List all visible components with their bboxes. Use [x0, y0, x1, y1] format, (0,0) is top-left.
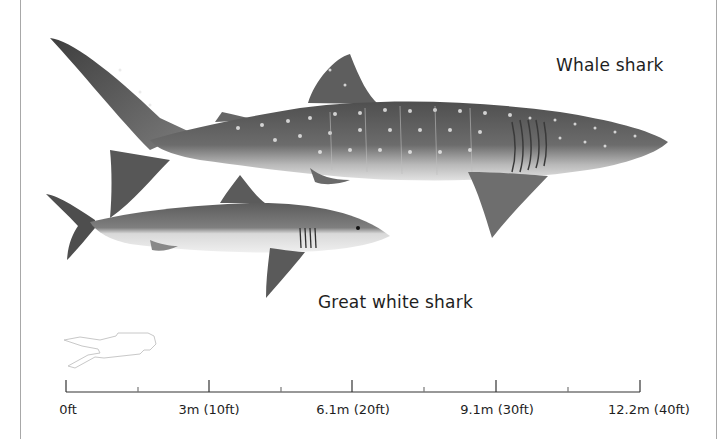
scale-label-10ft: 3m (10ft)	[178, 402, 239, 417]
great-white-shark-label: Great white shark	[318, 292, 473, 312]
great-white-shark-illustration	[46, 175, 390, 298]
whale-shark-label: Whale shark	[556, 55, 664, 75]
scale-label-30ft: 9.1m (30ft)	[460, 402, 534, 417]
scale-label-20ft: 6.1m (20ft)	[316, 402, 390, 417]
scale-label-0ft: 0ft	[59, 402, 77, 417]
scuba-diver-outline-icon	[64, 333, 156, 368]
scale-label-40ft: 12.2m (40ft)	[608, 402, 690, 417]
scale-bar	[66, 380, 640, 392]
